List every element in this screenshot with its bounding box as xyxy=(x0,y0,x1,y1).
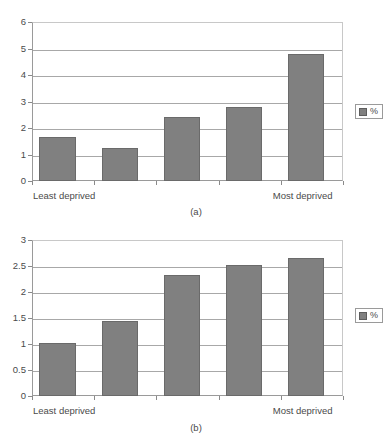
y-axis-tick-mark xyxy=(28,344,32,345)
y-axis-tick-mark xyxy=(28,370,32,371)
x-axis-tick-mark xyxy=(281,181,282,185)
x-axis-tick-mark xyxy=(156,181,157,185)
y-axis-tick-mark xyxy=(28,49,32,50)
y-axis-tick-mark xyxy=(28,292,32,293)
panel-caption-b: (b) xyxy=(0,422,392,433)
bar xyxy=(288,54,324,181)
y-axis-tick-mark xyxy=(28,266,32,267)
y-axis-tick-mark xyxy=(28,128,32,129)
x-axis-tick-mark xyxy=(94,181,95,185)
x-axis-label-most-deprived-b: Most deprived xyxy=(273,405,333,416)
panel-b: 00.511.522.53 Least deprived Most depriv… xyxy=(0,222,392,444)
y-axis-tick-label: 2.5 xyxy=(13,261,26,271)
bar xyxy=(102,321,138,396)
y-axis-tick-label: 1.5 xyxy=(13,313,26,323)
legend-a: % xyxy=(355,104,383,119)
y-axis-tick-label: 0.5 xyxy=(13,365,26,375)
bar xyxy=(164,275,200,396)
y-axis-tick-label: 3 xyxy=(21,97,26,107)
x-axis-tick-mark xyxy=(281,396,282,400)
chart-b: 00.511.522.53 Least deprived Most depriv… xyxy=(0,222,392,444)
x-axis-tick-mark xyxy=(219,181,220,185)
y-axis-tick-label: 0 xyxy=(21,391,26,401)
y-axis-tick-label: 1 xyxy=(21,150,26,160)
y-axis-tick-label: 2 xyxy=(21,287,26,297)
x-axis-label-most-deprived-a: Most deprived xyxy=(273,190,333,201)
y-axis-tick-label: 2 xyxy=(21,123,26,133)
bar xyxy=(164,117,200,181)
y-axis-tick-mark xyxy=(28,155,32,156)
y-axis-tick-mark xyxy=(28,318,32,319)
gridline xyxy=(33,50,342,51)
x-axis-label-least-deprived-a: Least deprived xyxy=(33,190,95,201)
bar xyxy=(226,265,262,396)
x-axis-tick-mark xyxy=(32,181,33,185)
x-axis-tick-mark xyxy=(94,396,95,400)
bar xyxy=(102,148,138,181)
y-axis-tick-label: 4 xyxy=(21,70,26,80)
y-axis-tick-mark xyxy=(28,102,32,103)
y-axis-tick-label: 1 xyxy=(21,339,26,349)
legend-swatch-icon-b xyxy=(359,312,367,320)
legend-label-a: % xyxy=(370,107,378,116)
bar xyxy=(39,343,75,396)
y-axis-tick-mark xyxy=(28,22,32,23)
y-axis-tick-mark xyxy=(28,240,32,241)
y-axis-tick-mark xyxy=(28,75,32,76)
y-axis-tick-label: 6 xyxy=(21,17,26,27)
figure-two-bar-charts: 0123456 Least deprived Most deprived % (… xyxy=(0,0,392,444)
legend-swatch-icon-a xyxy=(359,108,367,116)
bar xyxy=(288,258,324,396)
x-axis-tick-mark xyxy=(32,396,33,400)
x-axis-label-least-deprived-b: Least deprived xyxy=(33,405,95,416)
chart-a: 0123456 Least deprived Most deprived % (… xyxy=(0,0,392,222)
y-axis-tick-label: 3 xyxy=(21,235,26,245)
x-axis-tick-mark xyxy=(343,396,344,400)
legend-label-b: % xyxy=(370,311,378,320)
y-axis-tick-label: 5 xyxy=(21,44,26,54)
panel-caption-a: (a) xyxy=(0,206,392,217)
bar xyxy=(226,107,262,181)
x-axis-tick-mark xyxy=(343,181,344,185)
bar xyxy=(39,137,75,181)
x-axis-tick-mark xyxy=(156,396,157,400)
y-axis-tick-label: 0 xyxy=(21,176,26,186)
panel-a: 0123456 Least deprived Most deprived % (… xyxy=(0,0,392,222)
legend-b: % xyxy=(355,308,383,323)
x-axis-tick-mark xyxy=(219,396,220,400)
